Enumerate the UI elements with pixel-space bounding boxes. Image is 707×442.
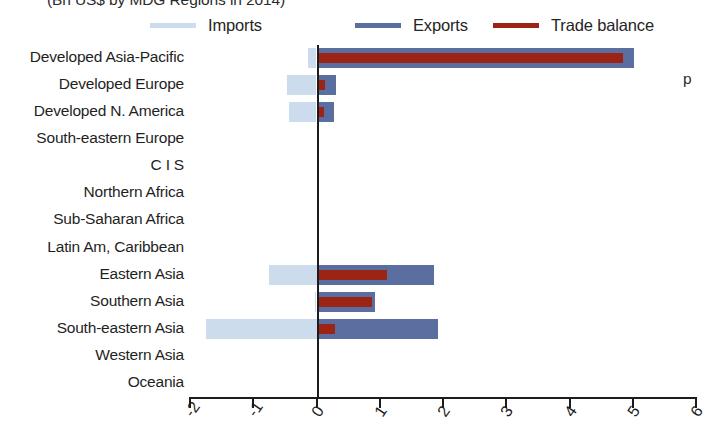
legend-swatch-icon [150, 23, 196, 28]
zero-axis-line [317, 45, 319, 397]
legend-item-imports[interactable]: Imports [150, 13, 262, 37]
y-axis-label: Developed Europe [0, 75, 184, 93]
bar-row [190, 72, 696, 99]
legend-swatch-icon [355, 23, 401, 28]
bar-trade-balance[interactable] [317, 324, 336, 334]
bar-row [190, 99, 696, 126]
bar-row [190, 370, 696, 397]
bar-trade-balance[interactable] [317, 297, 373, 307]
bar-row [190, 153, 696, 180]
chart-title: (Bn US$ by MDG Regions in 2014) [47, 0, 285, 9]
clipped-edge-text: p [683, 70, 692, 88]
y-axis-label: South-eastern Europe [0, 129, 184, 147]
bar-row [190, 180, 696, 207]
y-axis-label: Developed N. America [0, 102, 184, 120]
bar-trade-balance[interactable] [317, 270, 388, 280]
x-axis-tick-label: 1 [371, 403, 391, 421]
x-axis-tick-label: 2 [434, 403, 454, 421]
y-axis-label: Southern Asia [0, 292, 184, 310]
x-axis-tick-label: 4 [561, 403, 581, 421]
bar-trade-balance[interactable] [317, 53, 624, 63]
bar-row [190, 235, 696, 262]
bar-imports[interactable] [308, 48, 316, 68]
y-axis-label: Developed Asia-Pacific [0, 48, 184, 66]
x-axis-tick-label: 6 [687, 403, 707, 421]
y-axis-label: Oceania [0, 373, 184, 391]
y-axis-category-labels: Developed Asia-PacificDeveloped EuropeDe… [0, 45, 184, 397]
x-axis-tick-label: 5 [624, 403, 644, 421]
bar-row [190, 262, 696, 289]
bar-row [190, 289, 696, 316]
y-axis-label: C I S [0, 156, 184, 174]
x-axis-tick-label: -2 [181, 398, 204, 420]
x-axis-tick-label: 0 [308, 403, 328, 421]
legend-swatch-icon [493, 23, 539, 28]
bar-imports[interactable] [287, 75, 317, 95]
legend-item-trade-balance[interactable]: Trade balance [493, 13, 654, 37]
x-axis-tick-label: 3 [497, 403, 517, 421]
legend-label: Exports [413, 16, 468, 35]
bar-row [190, 45, 696, 72]
bar-imports[interactable] [269, 265, 316, 285]
legend-label: Trade balance [551, 16, 654, 35]
y-axis-label: Northern Africa [0, 183, 184, 201]
bar-imports[interactable] [206, 319, 317, 339]
y-axis-label: Latin Am, Caribbean [0, 238, 184, 256]
y-axis-label: Western Asia [0, 346, 184, 364]
y-axis-label: Sub-Saharan Africa [0, 210, 184, 228]
bar-imports[interactable] [289, 102, 317, 122]
y-axis-label: Eastern Asia [0, 265, 184, 283]
bar-row [190, 343, 696, 370]
bar-row [190, 207, 696, 234]
legend-item-exports[interactable]: Exports [355, 13, 468, 37]
y-axis-label: South-eastern Asia [0, 319, 184, 337]
x-axis-tick-label: -1 [244, 398, 267, 420]
bar-row [190, 316, 696, 343]
plot-area [190, 45, 696, 397]
legend-label: Imports [208, 16, 262, 35]
chart-legend: ImportsExportsTrade balance [0, 13, 696, 37]
bar-row [190, 126, 696, 153]
